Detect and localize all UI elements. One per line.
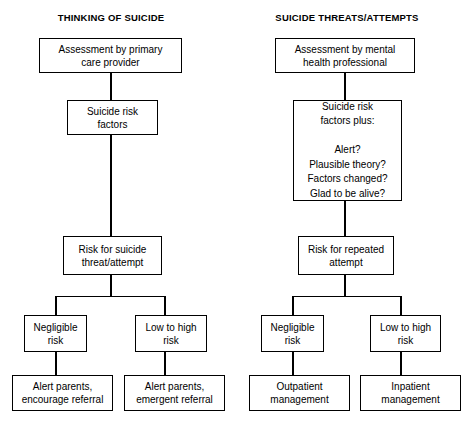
connector-branch-drop-right-right-column bbox=[400, 296, 402, 316]
connector-branch-drop-right bbox=[164, 296, 166, 316]
connector-negligible-to-outpatient bbox=[292, 351, 294, 376]
node-label: Negligible risk bbox=[271, 321, 315, 347]
node-outpatient-management: Outpatient management bbox=[249, 375, 350, 411]
node-label: Low to high risk bbox=[380, 321, 431, 347]
connector-risk-factors-plus-to-risk-level bbox=[344, 200, 346, 237]
node-assessment-primary-care: Assessment by primary care provider bbox=[39, 38, 182, 73]
node-risk-for-suicide-threat-attempt: Risk for suicide threat/attempt bbox=[63, 236, 162, 275]
connector-low-to-high-to-outcome-left bbox=[164, 351, 166, 376]
connector-branch-drop-left bbox=[55, 296, 57, 316]
node-label: Low to high risk bbox=[145, 321, 196, 347]
connector-branch-drop-left-right-column bbox=[292, 296, 294, 316]
node-low-to-high-risk-right: Low to high risk bbox=[370, 315, 441, 352]
node-label: Negligible risk bbox=[34, 321, 78, 347]
node-label: Risk for suicide threat/attempt bbox=[79, 243, 147, 269]
connector-branch-crossbar bbox=[55, 296, 166, 298]
connector-repeated-attempt-stem bbox=[344, 274, 346, 297]
connector-low-to-high-to-inpatient bbox=[400, 351, 402, 376]
node-alert-parents-emergent-referral: Alert parents, emergent referral bbox=[124, 375, 225, 411]
node-low-to-high-risk-left: Low to high risk bbox=[135, 315, 207, 352]
flowchart-diagram: THINKING OF SUICIDE Assessment by primar… bbox=[0, 0, 467, 422]
column-heading-thinking-of-suicide: THINKING OF SUICIDE bbox=[58, 12, 165, 24]
node-label: Alert parents, encourage referral bbox=[22, 380, 104, 406]
node-label: Assessment by primary care provider bbox=[59, 43, 163, 69]
connector-negligible-to-outcome-left bbox=[55, 351, 57, 376]
node-suicide-risk-factors-plus: Suicide risk factors plus: Alert? Plausi… bbox=[293, 100, 402, 201]
node-label: Alert parents, emergent referral bbox=[136, 380, 213, 406]
node-inpatient-management: Inpatient management bbox=[360, 375, 461, 411]
node-label: Assessment by mental health professional bbox=[295, 43, 396, 69]
node-label: Suicide risk factors bbox=[87, 105, 138, 131]
connector-assessment-to-risk-factors bbox=[110, 73, 112, 101]
connector-branch-crossbar-right bbox=[292, 296, 402, 298]
node-assessment-mental-health: Assessment by mental health professional bbox=[275, 38, 415, 73]
connector-assessment-to-risk-factors-plus bbox=[344, 73, 346, 101]
column-heading-suicide-threats-attempts: SUICIDE THREATS/ATTEMPTS bbox=[275, 12, 418, 24]
node-label: Risk for repeated attempt bbox=[308, 243, 384, 269]
node-label: Suicide risk factors plus: Alert? Plausi… bbox=[307, 100, 387, 202]
node-alert-parents-encourage-referral: Alert parents, encourage referral bbox=[12, 375, 113, 411]
node-negligible-risk-left: Negligible risk bbox=[24, 315, 87, 352]
node-negligible-risk-right: Negligible risk bbox=[261, 315, 324, 352]
node-suicide-risk-factors: Suicide risk factors bbox=[67, 100, 158, 135]
connector-risk-factors-to-risk-level bbox=[110, 134, 112, 237]
node-label: Outpatient management bbox=[270, 380, 328, 406]
node-label: Inpatient management bbox=[381, 380, 439, 406]
connector-risk-level-stem bbox=[110, 274, 112, 297]
node-risk-for-repeated-attempt: Risk for repeated attempt bbox=[298, 236, 394, 275]
